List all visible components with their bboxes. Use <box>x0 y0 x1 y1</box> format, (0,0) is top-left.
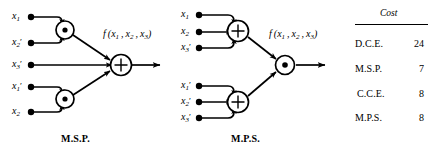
mps-output-function-label: f (x1 , x2 , x3) <box>269 29 317 41</box>
mps-input-label-2: x2 <box>181 26 189 38</box>
cost-table-row-name-2: C.C.E. <box>357 89 385 99</box>
mps-input-label-6: x3′ <box>181 112 191 124</box>
figure-canvas: x1 x2′ x3′ x1′ x2 f (x1 , x2 , x3) M.S.P… <box>0 0 432 151</box>
mps-caption: M.P.S. <box>231 134 260 144</box>
msp-input-label-2: x2′ <box>12 37 22 49</box>
msp-input-label-1: x1 <box>12 11 20 23</box>
msp-input-label-5: x2 <box>12 106 20 118</box>
cost-table-row-value-1: 7 <box>398 64 424 74</box>
cost-table-rule <box>355 24 428 25</box>
cost-table-row-name-3: M.P.S. <box>355 113 382 123</box>
mps-input-label-5: x2′ <box>181 96 191 108</box>
mps-input-label-4: x1′ <box>181 80 191 92</box>
mps-input-label-1: x1 <box>181 9 189 21</box>
msp-output-function-label: f (x1 , x2 , x3) <box>103 29 151 41</box>
cost-table-row-name-1: M.S.P. <box>355 64 382 74</box>
mps-input-dots <box>196 12 202 121</box>
cost-table-row-value-3: 8 <box>398 113 424 123</box>
circuit-diagram-vector <box>0 0 432 151</box>
msp-caption: M.S.P. <box>61 134 90 144</box>
cost-table-row-value-2: 8 <box>398 89 424 99</box>
mps-input-label-3: x3′ <box>181 42 191 54</box>
msp-input-label-3: x3′ <box>12 59 22 71</box>
cost-table-row-value-0: 24 <box>398 39 424 49</box>
msp-input-label-4: x1′ <box>12 81 22 93</box>
cost-table-header: Cost <box>380 9 397 19</box>
cost-table-row-name-0: D.C.E. <box>355 39 383 49</box>
